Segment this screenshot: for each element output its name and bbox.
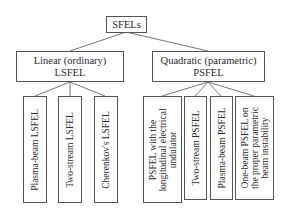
branch-node-linear: Linear (ordinary) LSFEL — [16, 51, 124, 82]
leaf-label-line1: PSFEL with the — [148, 108, 158, 191]
root-label: SFELs — [112, 19, 141, 31]
leaf-label-line1: One-beam PSFEL on — [240, 107, 250, 189]
leaf-label-line2: the proper parametric — [250, 107, 260, 189]
leaf-label-line2: longitudinal electrical — [158, 108, 168, 191]
leaf-two-stream-psfel: Two-stream PSFEL — [184, 96, 207, 200]
branch-label-line1: Linear (ordinary) — [34, 55, 107, 67]
leaf-cherenkovs-lsfel: Cherenkov's LSFEL — [94, 96, 118, 203]
leaf-plasma-beam-lsfel: Plasma-beam LSFEL — [23, 96, 47, 203]
leaf-psfel-longitudinal-undulator: PSFEL with the longitudinal electrical u… — [143, 96, 182, 203]
leaf-label: Two-stream LSFEL — [65, 112, 75, 188]
branch-label-line1: Quadratic (parametric) — [161, 55, 257, 67]
branch-label-line2: PSFEL — [193, 67, 223, 79]
leaf-one-beam-psfel: One-beam PSFEL on the proper parametric … — [235, 96, 274, 200]
leaf-label: Cherenkov's LSFEL — [101, 111, 111, 188]
branch-label-line2: LSFEL — [55, 67, 86, 79]
branch-node-quadratic: Quadratic (parametric) PSFEL — [152, 51, 265, 82]
root-node-sfels: SFELs — [106, 16, 147, 33]
leaf-label: PSFEL with the longitudinal electrical u… — [148, 108, 178, 191]
leaf-plasma-beam-psfel: Plasma-beam PSFEL — [210, 96, 233, 200]
leaf-two-stream-lsfel: Two-stream LSFEL — [58, 96, 82, 203]
leaf-label-line3: undulator — [168, 108, 178, 191]
leaf-label: Plasma-beam LSFEL — [30, 109, 40, 191]
leaf-label-line3: beam instability — [260, 107, 270, 189]
leaf-label: Two-stream PSFEL — [191, 110, 201, 185]
leaf-label: One-beam PSFEL on the proper parametric … — [240, 107, 270, 189]
leaf-label: Plasma-beam PSFEL — [217, 107, 227, 188]
